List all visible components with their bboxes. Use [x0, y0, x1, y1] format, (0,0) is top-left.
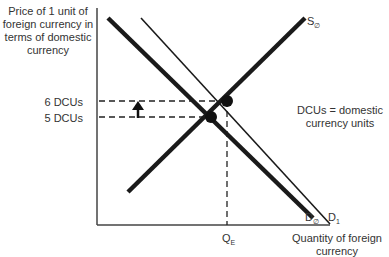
qe-label: QE [222, 232, 235, 249]
demand-d0-label: D∅ [305, 211, 319, 228]
x-axis-label: Quantity of foreign currency [292, 232, 382, 257]
dcu-note: DCUs = domestic currency units [290, 104, 389, 130]
equilibrium-point-new [221, 95, 233, 107]
supply-curve-s0 [128, 18, 305, 192]
arrow-up-icon [132, 101, 144, 118]
supply-label: S∅ [307, 15, 320, 32]
price-label-5: 5 DCUs [44, 112, 83, 125]
equilibrium-point-initial [205, 111, 217, 123]
demand-d1-label: D1 [328, 211, 340, 228]
price-label-6: 6 DCUs [44, 96, 83, 109]
y-axis-label: Price of 1 unit of foreign currency in t… [2, 5, 94, 57]
